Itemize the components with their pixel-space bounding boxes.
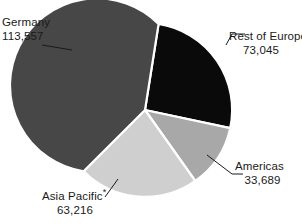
slice-label-americas-name: Americas	[231, 160, 300, 174]
slice-label-asia-pacific-value: 63,216	[42, 204, 122, 218]
slice-label-asia-pacific-name: Asia Pacific	[42, 190, 103, 202]
pie-chart: Germany 113,557 Rest of Europe 73,045 Am…	[0, 0, 302, 224]
slice-label-germany-name: Germany	[2, 16, 76, 30]
slice-label-asia-pacific-name-wrap: Asia Pacific*	[42, 190, 122, 204]
slice-label-germany: Germany 113,557	[2, 16, 76, 43]
slice-label-rest-of-europe: Rest of Europe 73,045	[229, 30, 301, 57]
slice-label-germany-value: 113,557	[2, 30, 76, 44]
slice-label-asia-pacific: Asia Pacific* 63,216	[42, 190, 122, 217]
slice-label-americas: Americas 33,689	[231, 160, 300, 187]
slice-label-rest-of-europe-value: 73,045	[229, 44, 301, 58]
footnote-marker-icon: *	[103, 187, 107, 197]
slice-label-rest-of-europe-name: Rest of Europe	[229, 30, 301, 44]
slice-label-americas-value: 33,689	[231, 174, 300, 188]
